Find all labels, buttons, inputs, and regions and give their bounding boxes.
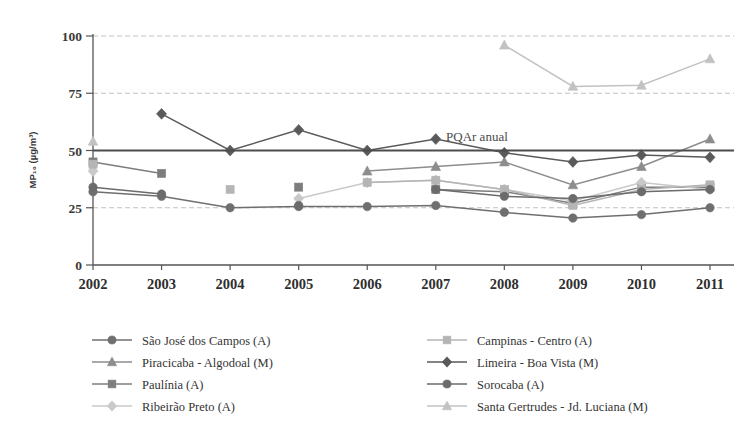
marker-circle (500, 192, 508, 200)
chart-container: 0255075100200220032004200520062007200820… (0, 0, 744, 436)
x-tick-label-2008: 2008 (490, 276, 519, 292)
marker-circle (637, 187, 645, 195)
legend-label: Limeira - Boa Vista (M) (477, 356, 598, 370)
mp10-line-chart: 0255075100200220032004200520062007200820… (0, 0, 744, 436)
legend-item-0-1[interactable]: Piracicaba - Algodoal (M) (92, 356, 273, 370)
y-tick-label-0: 0 (75, 258, 82, 273)
series-line-7 (504, 45, 710, 86)
y-axis-title: MP₁₀ (µg/m³) (27, 132, 38, 189)
marker-triangle (705, 134, 715, 143)
x-tick-label-2002: 2002 (79, 276, 108, 292)
marker-diamond (107, 401, 117, 411)
series-line-1 (367, 139, 710, 185)
series-5 (156, 108, 715, 167)
marker-circle (89, 183, 97, 191)
marker-diamond (499, 147, 509, 158)
x-tick-label-2004: 2004 (216, 276, 245, 292)
marker-diamond (431, 134, 441, 145)
x-tick-label-2009: 2009 (558, 276, 587, 292)
series-7 (88, 40, 715, 145)
legend-item-1-3[interactable]: Santa Gertrudes - Jd. Luciana (M) (427, 400, 648, 414)
legend-item-1-2[interactable]: Sorocaba (A) (427, 378, 544, 392)
series-4 (89, 160, 714, 209)
marker-circle (108, 336, 116, 344)
legend-item-1-0[interactable]: Campinas - Centro (A) (427, 334, 592, 348)
marker-diamond (705, 152, 715, 163)
y-tick-label-50: 50 (69, 144, 83, 159)
marker-square (363, 179, 371, 187)
marker-triangle (88, 136, 98, 145)
legend-item-0-3[interactable]: Ribeirão Preto (A) (92, 400, 235, 414)
marker-circle (432, 185, 440, 193)
x-tick-label-2007: 2007 (421, 276, 450, 292)
y-tick-label-25: 25 (69, 201, 83, 216)
marker-circle (569, 194, 577, 202)
annotation-pqar-anual: PQAr anual (446, 129, 508, 144)
marker-triangle (500, 40, 510, 49)
marker-circle (294, 201, 302, 209)
marker-diamond (568, 157, 578, 168)
x-tick-label-2010: 2010 (627, 276, 656, 292)
legend-label: Sorocaba (A) (477, 378, 544, 392)
series-line-2 (93, 162, 162, 173)
legend-item-1-1[interactable]: Limeira - Boa Vista (M) (427, 356, 598, 370)
marker-circle (706, 185, 714, 193)
marker-circle (706, 204, 714, 212)
y-tick-label-100: 100 (62, 29, 83, 44)
marker-square (89, 160, 97, 168)
marker-triangle (705, 54, 715, 63)
legend-label: Paulínia (A) (142, 378, 203, 392)
marker-circle (443, 380, 451, 388)
x-tick-label-2003: 2003 (147, 276, 176, 292)
legend-label: Campinas - Centro (A) (477, 334, 592, 348)
marker-circle (363, 202, 371, 210)
marker-square (158, 169, 166, 177)
legend-item-0-2[interactable]: Paulínia (A) (92, 378, 203, 392)
marker-circle (500, 208, 508, 216)
marker-square (295, 183, 303, 191)
legend-item-0-0[interactable]: São José dos Campos (A) (92, 334, 270, 348)
y-tick-label-75: 75 (69, 86, 83, 101)
marker-circle (432, 201, 440, 209)
legend-label: São José dos Campos (A) (142, 334, 270, 348)
marker-square (108, 380, 116, 388)
x-tick-label-2006: 2006 (353, 276, 382, 292)
legend-label: Piracicaba - Algodoal (M) (142, 356, 273, 370)
marker-circle (157, 190, 165, 198)
x-tick-label-2005: 2005 (284, 276, 313, 292)
marker-diamond (156, 108, 166, 119)
marker-diamond (442, 357, 452, 367)
marker-diamond (294, 124, 304, 135)
marker-square (443, 336, 451, 344)
legend-label: Ribeirão Preto (A) (142, 400, 235, 414)
x-tick-label-2011: 2011 (696, 276, 724, 292)
marker-circle (226, 204, 234, 212)
legend-label: Santa Gertrudes - Jd. Luciana (M) (477, 400, 648, 414)
marker-square (432, 176, 440, 184)
marker-circle (569, 214, 577, 222)
marker-square (226, 185, 234, 193)
marker-circle (637, 210, 645, 218)
